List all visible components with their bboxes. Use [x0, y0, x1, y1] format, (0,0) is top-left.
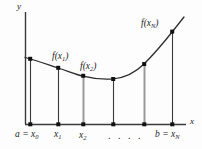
axis-point-x2: [81, 122, 85, 126]
tick-label-x1: x1: [54, 130, 61, 140]
axis-point-xN: [170, 122, 174, 126]
tick-label-ellipsis: . . . .: [108, 130, 143, 141]
f-x1-close: ): [65, 51, 68, 61]
figure-canvas: [0, 0, 202, 149]
f-x2-prefix: f(x: [80, 61, 90, 71]
curve-point-x2: [81, 74, 85, 78]
axis-point-xn-1: [142, 122, 146, 126]
function-curve: [25, 17, 184, 79]
x2-subscript: 2: [83, 134, 86, 141]
tick-label-x2: x2: [79, 131, 86, 141]
axis-point-mid: [111, 122, 115, 126]
curve-point-x0: [28, 57, 32, 61]
f-xN-prefix: f(x: [141, 18, 151, 28]
tick-label-a-equals-x0: a = x0: [15, 130, 38, 140]
curve-point-xN: [170, 30, 174, 34]
f-xN-close: ): [155, 18, 158, 28]
curve-point-x1: [56, 66, 60, 70]
y-axis-label: y: [17, 2, 21, 11]
axis-point-x1: [56, 122, 60, 126]
curve-label-f-x1: f(x1): [52, 52, 68, 62]
b-equals-xN-subscript: N: [175, 133, 179, 140]
curve-point-xn-1: [142, 62, 146, 66]
f-x1-prefix: f(x: [52, 51, 62, 61]
a-equals-x0-prefix: a = x: [15, 129, 35, 139]
f-x2-close: ): [93, 61, 96, 71]
riemann-sum-figure: y x f(x1) f(x2) f(xN) a = x0 x1 x2 . . .…: [0, 0, 202, 149]
b-equals-xN-prefix: b = x: [155, 129, 175, 139]
axis-point-x0: [28, 122, 32, 126]
tick-label-b-equals-xN: b = xN: [155, 130, 179, 140]
x1-subscript: 1: [58, 133, 61, 140]
curve-label-f-xN: f(xN): [141, 19, 159, 29]
curve-label-f-x2: f(x2): [80, 62, 96, 72]
curve-point-mid: [111, 77, 115, 81]
x-axis-label: x: [190, 117, 194, 126]
a-equals-x0-subscript: 0: [35, 133, 38, 140]
